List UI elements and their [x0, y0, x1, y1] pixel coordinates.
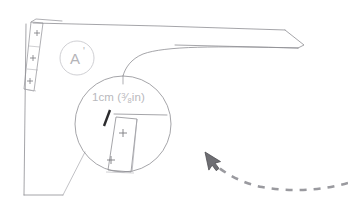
pattern-drawing-canvas: A ' 1cm (3⁄8in) — [0, 0, 348, 216]
arrow-pointer-icon[interactable] — [205, 149, 222, 172]
cursor-overlay-svg — [0, 0, 348, 216]
cursor-motion-trail — [219, 168, 348, 190]
